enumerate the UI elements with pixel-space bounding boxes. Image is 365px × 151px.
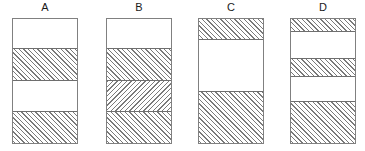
bar-label-a: A	[12, 0, 78, 14]
bar-label-b: B	[106, 0, 172, 14]
bar-a-divider-2	[13, 80, 77, 81]
bar-c-divider-1	[199, 39, 263, 40]
bar-body-c	[198, 18, 264, 144]
bar-a-band-4-hatch-right	[13, 111, 77, 144]
bar-label-c: C	[198, 0, 264, 14]
hatched-bar-diagram: ABCD	[0, 0, 365, 151]
bar-label-d: D	[290, 0, 356, 14]
bar-group-b: B	[106, 0, 172, 144]
bar-a-divider-1	[13, 48, 77, 49]
bar-b-band-1-blank	[107, 19, 171, 48]
bar-c-band-1-hatch-right	[199, 19, 263, 39]
bar-b-divider-1	[107, 48, 171, 49]
bar-d-band-3-hatch-right	[291, 58, 355, 76]
bar-body-a	[12, 18, 78, 144]
bar-c-band-3-hatch-right	[199, 91, 263, 144]
bar-a-band-1-blank	[13, 19, 77, 48]
bar-group-c: C	[198, 0, 264, 144]
bar-d-divider-2	[291, 58, 355, 59]
bar-body-d	[290, 18, 356, 144]
bar-group-a: A	[12, 0, 78, 144]
bar-body-b	[106, 18, 172, 144]
bar-group-d: D	[290, 0, 356, 144]
bar-d-band-4-blank	[291, 76, 355, 101]
bar-c-band-2-blank	[199, 39, 263, 91]
bar-a-band-3-blank	[13, 80, 77, 111]
bar-d-divider-4	[291, 101, 355, 102]
bar-b-band-4-hatch-right	[107, 111, 171, 144]
bar-c-divider-2	[199, 91, 263, 92]
bar-d-divider-3	[291, 76, 355, 77]
bar-b-divider-2	[107, 80, 171, 81]
bar-d-band-2-blank	[291, 31, 355, 58]
bar-d-divider-1	[291, 31, 355, 32]
bar-a-band-2-hatch-right	[13, 48, 77, 80]
bar-b-band-2-hatch-right	[107, 48, 171, 80]
bar-d-band-1-hatch-right	[291, 19, 355, 31]
bar-a-divider-3	[13, 111, 77, 112]
bar-b-band-3-hatch-left	[107, 80, 171, 111]
bar-b-divider-3	[107, 111, 171, 112]
bar-d-band-5-hatch-right	[291, 101, 355, 144]
